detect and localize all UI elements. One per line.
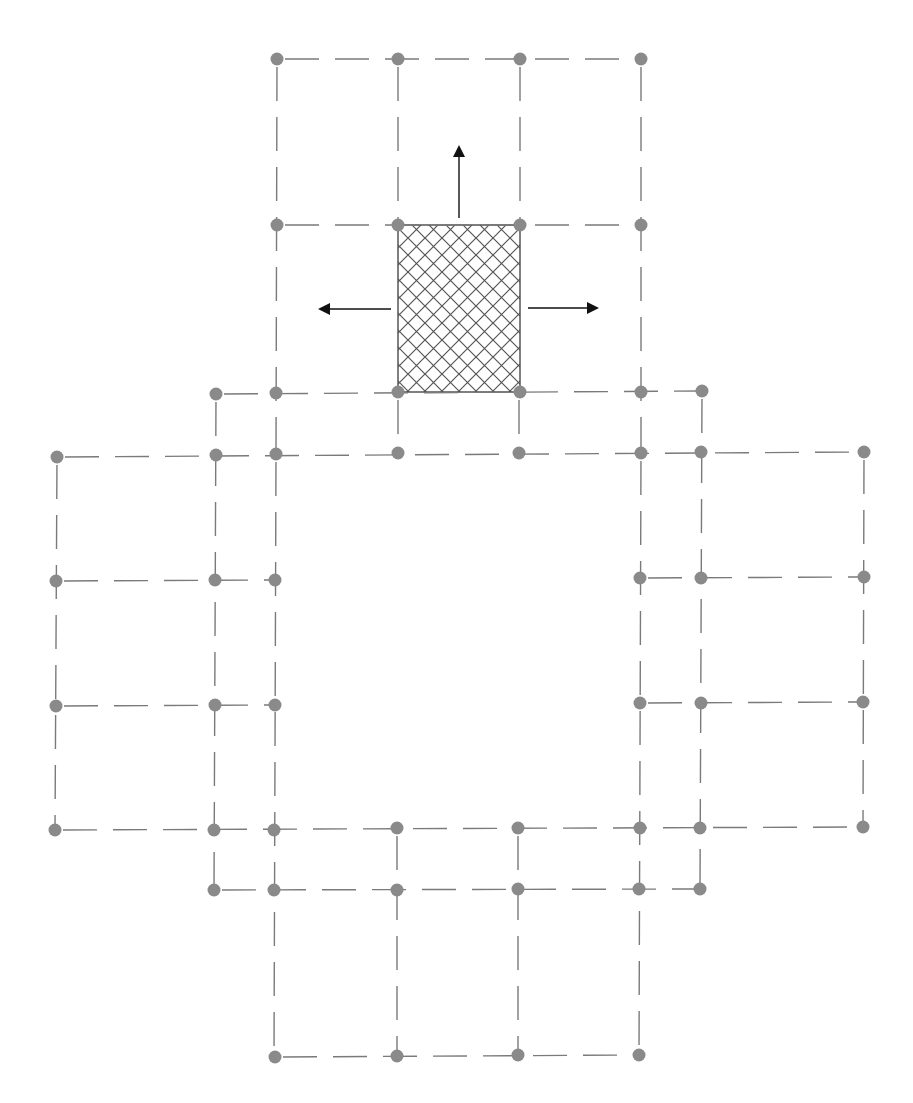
- grid-node: [210, 449, 223, 462]
- grid-node: [695, 572, 708, 585]
- grid-node: [512, 822, 525, 835]
- dashed-line: [55, 827, 863, 830]
- grid-expansion-diagram: [0, 0, 913, 1103]
- grid-node: [391, 822, 404, 835]
- grid-node: [269, 699, 282, 712]
- grid-node: [208, 824, 221, 837]
- grid-node: [512, 1049, 525, 1062]
- grid-node: [695, 697, 708, 710]
- dashed-line: [640, 702, 863, 703]
- grid-node: [208, 884, 221, 897]
- grid-node: [635, 447, 648, 460]
- grid-node: [50, 575, 63, 588]
- dashed-line: [57, 452, 864, 457]
- dashed-line: [863, 452, 864, 827]
- dashed-line: [214, 889, 700, 890]
- grid-node: [391, 1050, 404, 1063]
- grid-node: [210, 388, 223, 401]
- grid-node: [270, 387, 283, 400]
- grid-node: [209, 699, 222, 712]
- grid-node: [635, 53, 648, 66]
- grid-node: [271, 219, 284, 232]
- grid-node: [634, 822, 647, 835]
- grid-node: [857, 821, 870, 834]
- grid-node: [271, 53, 284, 66]
- grid-node: [392, 447, 405, 460]
- hatched-cell-rect: [398, 225, 520, 392]
- grid-node: [634, 697, 647, 710]
- grid-node: [633, 1049, 646, 1062]
- grid-node: [858, 446, 871, 459]
- grid-node: [635, 219, 648, 232]
- dashed-line: [640, 577, 864, 578]
- dashed-line: [639, 453, 641, 1055]
- grid-node: [514, 53, 527, 66]
- grid-node: [392, 386, 405, 399]
- grid-node: [514, 386, 527, 399]
- grid-node: [694, 883, 707, 896]
- dashed-line: [55, 457, 57, 830]
- hatched-cell: [398, 225, 520, 392]
- grid-node: [269, 574, 282, 587]
- grid-node: [634, 572, 647, 585]
- grid-node: [270, 448, 283, 461]
- dashed-line: [56, 580, 275, 581]
- grid-node: [696, 385, 709, 398]
- grid-node: [695, 446, 708, 459]
- dashed-line: [214, 394, 216, 890]
- grid-node: [392, 53, 405, 66]
- grid-node: [513, 447, 526, 460]
- grid-node: [694, 822, 707, 835]
- dashed-line: [56, 705, 275, 706]
- grid-node: [635, 386, 648, 399]
- grid-node: [268, 824, 281, 837]
- grid-node: [51, 451, 64, 464]
- grid-node: [391, 884, 404, 897]
- grid-node: [392, 219, 405, 232]
- grid-node: [633, 883, 646, 896]
- dashed-line: [275, 1055, 639, 1057]
- grid-node: [512, 883, 525, 896]
- grid-node: [50, 700, 63, 713]
- grid-node: [857, 696, 870, 709]
- grid-node: [269, 1051, 282, 1064]
- grid-node: [858, 571, 871, 584]
- grid-node: [209, 574, 222, 587]
- grid-node: [514, 219, 527, 232]
- grid-node: [49, 824, 62, 837]
- dashed-line: [274, 454, 276, 1057]
- grid-node: [268, 884, 281, 897]
- dashed-line: [700, 391, 702, 889]
